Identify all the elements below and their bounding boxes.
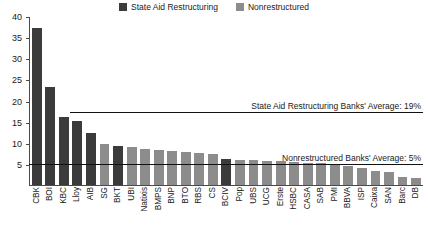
y-axis-tick (26, 38, 29, 39)
bar-slot (193, 17, 207, 185)
y-axis-tick (26, 144, 29, 145)
y-axis-tick (26, 80, 29, 81)
legend-label: Nonrestructured (248, 2, 309, 12)
bar-bbva (343, 166, 353, 185)
bar-boi (45, 87, 55, 185)
y-axis-tick-label: 5 (17, 160, 22, 170)
y-axis-tick (26, 17, 29, 18)
x-label-slot: BMPS (152, 187, 166, 239)
bar-cbk (32, 28, 42, 185)
bar-casa (303, 163, 313, 185)
y-axis-tick-label: 40 (12, 12, 22, 22)
bar-slot (233, 17, 247, 185)
x-label-slot: ISP (355, 187, 369, 239)
x-axis-label-san: SAN (385, 187, 393, 204)
x-label-slot: AIB (84, 187, 98, 239)
x-axis-label-erste: Erste (277, 187, 285, 206)
bar-cs (208, 154, 218, 185)
x-label-slot: BNP (165, 187, 179, 239)
x-axis-label-barc: Barc (398, 187, 406, 204)
bar-slot (152, 17, 166, 185)
x-axis-label-caixa: Caixa (371, 187, 379, 208)
bar-slot (44, 17, 58, 185)
x-label-slot: PMI (328, 187, 342, 239)
x-axis-label-hsbc: HSBC (290, 187, 298, 210)
x-axis-label-bciv: BCIV (222, 187, 230, 206)
x-axis-label-db: DB (412, 187, 420, 198)
x-label-slot: RBS (193, 187, 207, 239)
legend-swatch-icon (236, 3, 244, 11)
bar-sab (316, 163, 326, 185)
x-axis-label-pop: Pop (236, 187, 244, 202)
y-axis-tick-label: 25 (12, 75, 22, 85)
y-axis-tick-label: 10 (12, 139, 22, 149)
x-label-slot: Barc (396, 187, 410, 239)
bar-slot (111, 17, 125, 185)
x-axis-label-natixis: Natixis (141, 187, 149, 212)
x-label-slot: KBC (57, 187, 71, 239)
y-axis-tick-label: 20 (12, 97, 22, 107)
x-label-slot: SAN (382, 187, 396, 239)
bar-ubi (127, 147, 137, 185)
x-axis-label-ubs: UBS (249, 187, 257, 204)
x-axis-label-ubi: UBI (127, 187, 135, 201)
bar-slot (138, 17, 152, 185)
bar-caixa (371, 171, 381, 185)
x-axis-label-isp: ISP (358, 187, 366, 200)
bar-bkt (113, 146, 123, 185)
plot-area: 510152025303540 State Aid Restructuring … (29, 17, 423, 186)
x-label-slot: Erste (274, 187, 288, 239)
bar-bmps (154, 150, 164, 185)
x-label-slot: Lloy (71, 187, 85, 239)
x-axis-label-sab: SAB (317, 187, 325, 203)
bar-slot (57, 17, 71, 185)
x-label-slot: BOI (44, 187, 58, 239)
y-axis-tick (26, 102, 29, 103)
bar-barc (398, 177, 408, 185)
legend-item-1: State Aid Restructuring (119, 2, 218, 12)
x-label-slot: UBS (247, 187, 261, 239)
bar-aib (86, 133, 96, 185)
y-axis-tick (26, 59, 29, 60)
bar-slot (98, 17, 112, 185)
x-axis-label-kbc: KBC (60, 187, 68, 204)
bar-slot (125, 17, 139, 185)
y-axis-tick (26, 165, 29, 166)
x-axis-label-pmi: PMI (331, 187, 339, 202)
x-axis-label-bmps: BMPS (155, 187, 163, 210)
x-label-slot: CASA (301, 187, 315, 239)
x-axis-label-bnp: BNP (168, 187, 176, 204)
average-label-2: Nonrestructured Banks' Average: 5% (282, 153, 421, 163)
legend-label: State Aid Restructuring (131, 2, 218, 12)
x-axis-label-lloy: Lloy (73, 187, 81, 202)
bar-lloy (72, 121, 82, 185)
x-axis-label-ucg: UCG (263, 187, 271, 205)
bar-slot (220, 17, 234, 185)
bar-san (384, 172, 394, 185)
x-axis-line (29, 185, 423, 186)
x-label-slot: CBK (30, 187, 44, 239)
bar-hsbc (289, 162, 299, 185)
x-label-slot: HSBC (287, 187, 301, 239)
x-axis-label-rbs: RBS (195, 187, 203, 204)
bar-slot (206, 17, 220, 185)
x-label-slot: SAB (314, 187, 328, 239)
x-axis-label-casa: CASA (304, 187, 312, 209)
legend-item-2: Nonrestructured (236, 2, 309, 12)
bar-bnp (167, 151, 177, 185)
bar-kbc (59, 117, 69, 185)
x-axis-label-aib: AIB (87, 187, 95, 200)
y-axis-tick (26, 123, 29, 124)
x-axis-label-sg: SG (100, 187, 108, 199)
x-label-slot: UBI (125, 187, 139, 239)
x-axis-label-cs: CS (209, 187, 217, 198)
bar-rbs (194, 153, 204, 185)
bar-slot (179, 17, 193, 185)
x-axis-label-cbk: CBK (33, 187, 41, 204)
x-label-slot: Pop (233, 187, 247, 239)
y-axis-tick-label: 30 (12, 54, 22, 64)
x-axis-label-bkt: BKT (114, 187, 122, 203)
bar-isp (357, 168, 367, 185)
x-label-slot: BKT (111, 187, 125, 239)
x-axis-label-boi: BOI (46, 187, 54, 201)
